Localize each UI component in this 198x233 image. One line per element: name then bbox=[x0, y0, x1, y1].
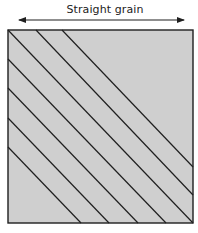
bias-cut-diagram bbox=[0, 0, 198, 233]
